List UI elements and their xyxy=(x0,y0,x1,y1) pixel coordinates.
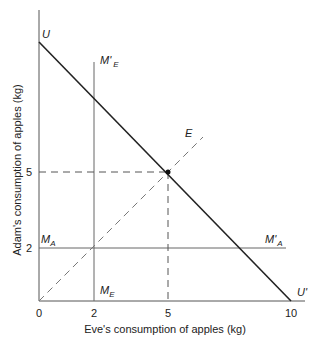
label-u-prime: U' xyxy=(297,286,308,298)
label-m-a-prime: M'A xyxy=(265,233,283,248)
label-u: U xyxy=(42,28,50,40)
label-m-e-prime: M'E xyxy=(100,54,119,69)
x-tick-0: 0 xyxy=(36,307,42,319)
x-axis-title: Eve's consumption of apples (kg) xyxy=(84,323,246,335)
y-tick-2: 2 xyxy=(26,242,32,254)
e-line xyxy=(39,137,203,301)
x-tick-10: 10 xyxy=(285,307,297,319)
chart: U U' E M'E ME MA M'A 0 2 5 10 5 2 Eve's … xyxy=(0,0,319,345)
equilibrium-point xyxy=(166,170,171,175)
y-tick-5: 5 xyxy=(26,166,32,178)
x-tick-2: 2 xyxy=(91,307,97,319)
x-tick-5: 5 xyxy=(165,307,171,319)
label-m-a: MA xyxy=(41,233,56,248)
label-m-e: ME xyxy=(100,284,115,299)
y-axis-title: Adam's consumption of apples (kg) xyxy=(11,84,23,255)
label-e: E xyxy=(185,127,193,139)
